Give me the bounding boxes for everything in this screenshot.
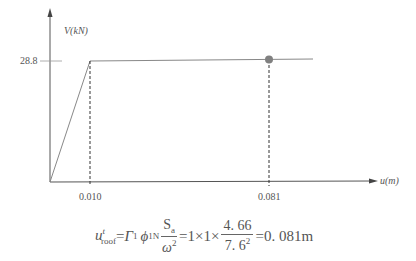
x-tick-label-1: 0.010 — [79, 191, 102, 202]
y-tick-label: 28.8 — [20, 55, 38, 66]
formula-lhs-sub: roof — [101, 236, 116, 246]
formula-frac1-num-sub: a — [171, 225, 175, 235]
formula-frac2-num: 4. 66 — [221, 219, 253, 235]
formula-frac1-den: ω — [162, 239, 172, 254]
x-tick-label-2: 0.081 — [258, 191, 281, 202]
x-axis-label: u(m) — [380, 175, 399, 186]
x-axis — [50, 181, 372, 182]
formula-gamma-sub: 1 — [133, 231, 138, 241]
formula-frac2-den-sup: 2 — [246, 236, 251, 246]
x-axis-arrow-icon — [369, 179, 378, 184]
formula-frac1-den-sup: 2 — [172, 238, 177, 248]
formula-lhs-sup: t — [103, 226, 106, 236]
formula-equals-2: =1×1× — [179, 228, 219, 245]
formula-fraction-2: 4. 66 7. 62 — [221, 219, 253, 253]
formula-gamma: Γ — [124, 228, 133, 245]
formula-lhs: utroof — [95, 226, 116, 246]
formula-frac2-den: 7. 6 — [225, 238, 246, 253]
formula-phi-sub: 1N — [148, 231, 159, 241]
y-axis-label: V(kN) — [64, 25, 88, 36]
formula-result: =0. 081m — [255, 228, 313, 245]
capacity-curve — [50, 59, 313, 182]
formula-fraction-1: Sa ω2 — [161, 218, 177, 254]
roof-displacement-formula: utroof = Γ1 ϕ1N Sa ω2 =1×1× 4. 66 7. 62 … — [95, 218, 313, 254]
performance-point-marker — [265, 56, 273, 64]
y-axis-arrow-icon — [48, 8, 53, 17]
formula-frac1-num: S — [163, 217, 171, 232]
formula-phi: ϕ — [141, 228, 149, 245]
